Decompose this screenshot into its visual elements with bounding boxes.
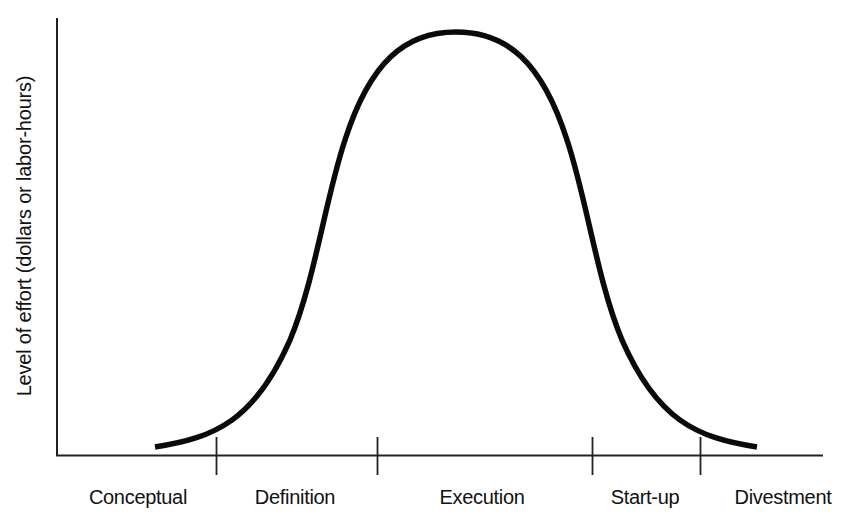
phase-label-start-up: Start-up [611,486,680,509]
y-axis-label-text: Level of effort (dollars or labor-hours) [13,76,36,397]
phase-label-divestment: Divestment [734,486,831,509]
chart-canvas [0,0,848,531]
phase-label-definition: Definition [255,486,335,509]
phase-label-execution: Execution [439,486,524,509]
phase-label-conceptual: Conceptual [89,486,187,509]
effort-curve [155,32,757,447]
